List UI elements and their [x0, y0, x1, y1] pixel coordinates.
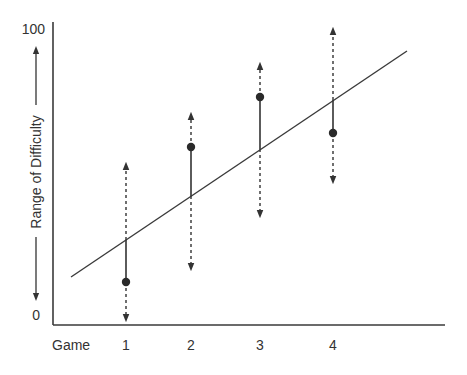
x-tick-4: 4	[329, 337, 337, 353]
actual-point	[122, 278, 130, 286]
x-tick-2: 2	[187, 337, 195, 353]
range-of-difficulty-diagram: 100 0 Range of Difficulty Game 1 2 3 4	[0, 0, 467, 375]
game-3-range	[256, 66, 264, 214]
y-max-label: 100	[22, 21, 46, 37]
actual-point	[256, 93, 264, 101]
x-axis-title: Game	[52, 337, 90, 353]
y-min-label: 0	[32, 307, 40, 323]
actual-point	[187, 143, 195, 151]
actual-point	[329, 129, 337, 137]
game-2-range	[187, 116, 195, 267]
x-tick-1: 1	[122, 337, 130, 353]
trend-line	[71, 51, 407, 277]
y-axis-title: Range of Difficulty	[28, 115, 44, 228]
x-tick-3: 3	[256, 337, 264, 353]
game-4-range	[329, 31, 337, 180]
